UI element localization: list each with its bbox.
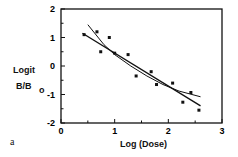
x-tick-label: 0 (58, 126, 63, 136)
data-point (108, 36, 111, 39)
y-tick-label: -1 (47, 90, 55, 100)
y-tick-label: 1 (50, 33, 55, 43)
y-tick-label: 0 (50, 61, 55, 71)
data-point (181, 101, 184, 104)
data-point (189, 91, 192, 94)
data-point (135, 74, 138, 77)
data-point (171, 82, 174, 85)
data-point (197, 109, 200, 112)
y-axis-label-ratio: B/B (16, 81, 32, 91)
data-point (150, 70, 153, 73)
plot-frame (61, 9, 222, 123)
linear-fit (82, 33, 200, 106)
curved-fit (88, 25, 201, 97)
x-tick-label: 1 (112, 126, 117, 136)
y-axis-label-line2: B/B o (16, 75, 41, 93)
x-axis-label: Log (Dose) (120, 139, 167, 149)
y-tick-label: -2 (47, 118, 55, 128)
data-point (113, 52, 116, 55)
data-point (155, 83, 158, 86)
data-point (99, 50, 102, 53)
x-tick-label: 2 (166, 126, 171, 136)
data-point (83, 33, 86, 36)
y-axis-label-line1: Logit (13, 65, 35, 75)
data-point (127, 53, 130, 56)
y-axis-label-subscript: o (39, 85, 45, 95)
data-point (95, 30, 98, 33)
x-tick-label: 3 (219, 126, 224, 136)
y-tick-label: 2 (50, 4, 55, 14)
panel-label: a (10, 136, 14, 147)
